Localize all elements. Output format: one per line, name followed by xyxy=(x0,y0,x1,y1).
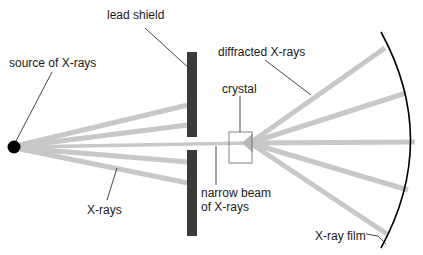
leader-xrays xyxy=(107,168,117,200)
leader-lead-shield xyxy=(145,28,191,70)
diffracted-ray-1 xyxy=(250,48,385,143)
label-source: source of X-rays xyxy=(9,56,96,70)
xray-source xyxy=(8,141,21,154)
incident-rays xyxy=(20,105,252,183)
lead-shield-upper xyxy=(187,52,197,137)
incident-ray-1 xyxy=(20,105,188,145)
label-narrow-beam-2: of X-rays xyxy=(201,200,249,214)
lead-shield-lower xyxy=(187,150,197,236)
diffracted-ray-3 xyxy=(250,142,415,143)
diffracted-ray-2 xyxy=(250,93,406,143)
diffracted-ray-4 xyxy=(250,143,408,190)
label-narrow-beam-1: narrow beam xyxy=(201,186,271,200)
diffracted-rays xyxy=(242,48,415,234)
leader-source xyxy=(16,72,52,141)
label-film: X-ray film xyxy=(315,229,366,243)
leader-film xyxy=(366,234,386,244)
label-diffracted: diffracted X-rays xyxy=(218,45,305,59)
xray-diffraction-diagram: source of X-rays lead shield diffracted … xyxy=(0,0,423,255)
label-xrays: X-rays xyxy=(87,203,122,217)
diffraction-cone xyxy=(242,133,253,153)
label-crystal: crystal xyxy=(222,82,257,96)
leader-diffracted xyxy=(265,60,311,95)
label-lead-shield: lead shield xyxy=(107,8,164,22)
